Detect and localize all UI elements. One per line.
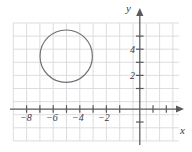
y-axis-arrow-icon (136, 8, 143, 16)
x-tick-label-neg6: −6 (46, 113, 58, 123)
graph-canvas (0, 0, 192, 152)
x-tick-label-neg8: −8 (20, 113, 32, 123)
x-axis-arrow-icon (176, 105, 184, 112)
x-axis-label: x (180, 125, 185, 136)
axis-arrowheads (136, 8, 184, 113)
coordinate-plane-figure: −8 −6 −4 −2 2 4 y x (0, 0, 192, 152)
x-tick-label-neg4: −4 (72, 113, 84, 123)
y-tick-label-2: 2 (130, 71, 135, 81)
y-tick-label-4: 4 (130, 45, 135, 55)
x-tick-label-neg2: −2 (98, 113, 110, 123)
grid-lines (13, 23, 179, 141)
y-axis-label: y (126, 3, 131, 14)
